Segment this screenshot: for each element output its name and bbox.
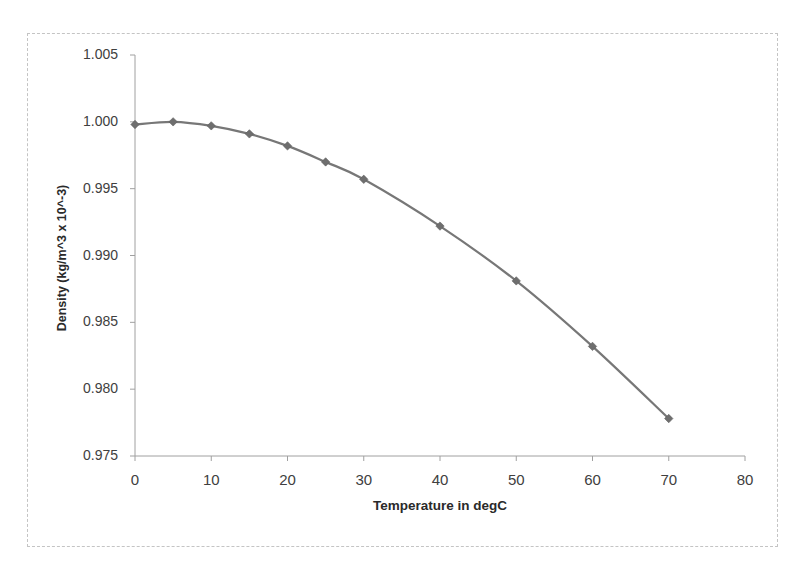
- x-tick-label: 10: [191, 471, 231, 488]
- diamond-marker-icon: [360, 175, 368, 183]
- y-axis-title: Density (kg/m^3 x 10^-3): [55, 128, 69, 388]
- y-tick-label: 1.000: [58, 113, 118, 129]
- plot-area: [0, 0, 804, 575]
- x-axis-title: Temperature in degC: [300, 498, 580, 513]
- density-line: [135, 122, 669, 419]
- data-series: [131, 118, 673, 423]
- x-tick-label: 50: [496, 471, 536, 488]
- axes: [130, 55, 745, 461]
- x-tick-label: 20: [268, 471, 308, 488]
- y-tick-label: 0.975: [58, 447, 118, 463]
- x-tick-label: 30: [344, 471, 384, 488]
- diamond-marker-icon: [169, 118, 177, 126]
- diamond-marker-icon: [321, 158, 329, 166]
- x-tick-label: 40: [420, 471, 460, 488]
- x-tick-label: 0: [115, 471, 155, 488]
- diamond-marker-icon: [207, 122, 215, 130]
- y-tick-label: 1.005: [58, 46, 118, 62]
- x-tick-label: 80: [725, 471, 765, 488]
- x-tick-label: 60: [573, 471, 613, 488]
- diamond-marker-icon: [283, 142, 291, 150]
- x-tick-label: 70: [649, 471, 689, 488]
- diamond-marker-icon: [245, 130, 253, 138]
